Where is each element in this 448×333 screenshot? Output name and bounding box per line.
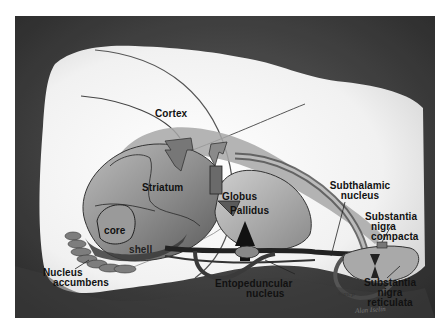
label-core: core [104,226,126,236]
label-ep-line2: nucleus [215,289,293,299]
label-substantia-nigra-compacta: Substantia nigra compacta [365,212,419,242]
label-nucleus-accumbens: Nucleus accumbens [43,268,109,288]
label-nacc-line2: accumbens [43,278,109,288]
label-pallidus: Pallidus [230,206,269,216]
label-snc-line3: compacta [365,232,419,242]
label-subthalamic-nucleus: Subthalamic nucleus [320,181,400,201]
label-substantia-nigra-reticulata: Substantia nigra reticulata [350,278,430,308]
label-globus: Globus [222,192,257,202]
copyright-mark: ©mcp [338,290,355,298]
label-entopeduncular-nucleus: Entopeduncular nucleus [215,279,293,299]
label-cortex: Cortex [155,109,187,119]
striatopallidal-tract [210,166,222,194]
label-subthalamic-line2: nucleus [320,191,400,201]
label-shell: shell [129,245,152,255]
label-striatum: Striatum [142,183,183,193]
entopeduncular-nucleus [235,246,259,258]
compacta-marker [377,242,387,248]
basal-ganglia-illustration: Cortex Striatum Globus Pallidus Subthala… [15,16,435,318]
